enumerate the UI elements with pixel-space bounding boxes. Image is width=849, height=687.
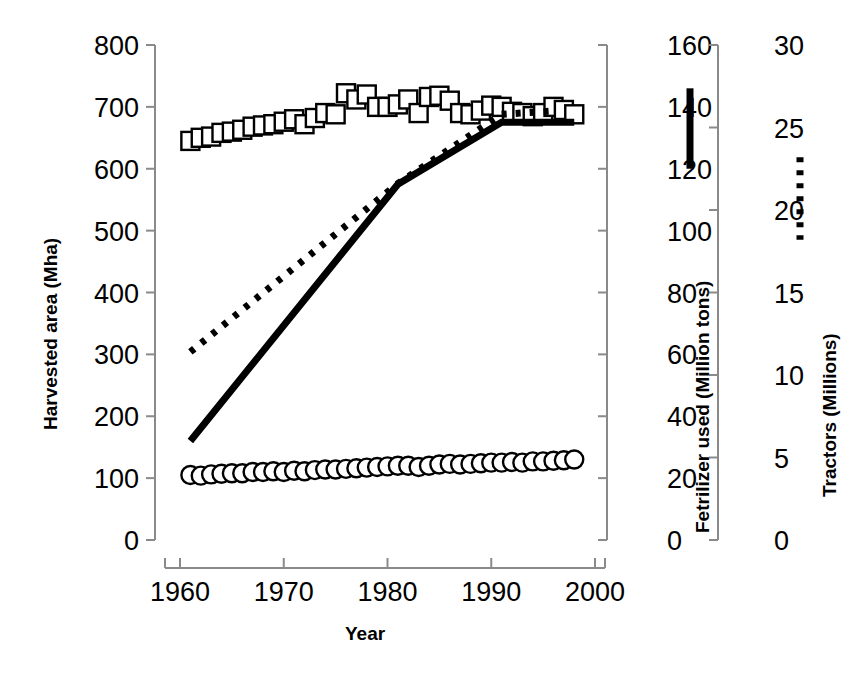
axis-tick-label: 100 bbox=[94, 464, 139, 494]
x-axis-tick-label: 2000 bbox=[565, 577, 625, 607]
axis-tick-label: 160 bbox=[667, 31, 712, 61]
x-axis-tick-label: 1970 bbox=[254, 577, 314, 607]
axis-tick-label: 700 bbox=[94, 93, 139, 123]
x-axis-tick-label: 1990 bbox=[461, 577, 521, 607]
y-axis-fertilizer-label: Fetrilizer used (Million tons) bbox=[692, 281, 714, 533]
axis-tick-label: 25 bbox=[774, 114, 804, 144]
y-axis-tractors-label: Tractors (Millions) bbox=[819, 333, 841, 497]
axis-tick-label: 200 bbox=[94, 402, 139, 432]
axis-tick-label: 600 bbox=[94, 155, 139, 185]
axis-tick-label: 100 bbox=[667, 217, 712, 247]
axis-tick-label: 400 bbox=[94, 279, 139, 309]
axis-tick-label: 0 bbox=[124, 526, 139, 556]
x-axis-label: Year bbox=[345, 623, 385, 645]
x-axis-tick-label: 1980 bbox=[357, 577, 417, 607]
x-axis-tick-label: 1960 bbox=[150, 577, 210, 607]
chart-figure: 0100200300400500600700800 02040608010012… bbox=[0, 0, 849, 687]
axis-tick-label: 300 bbox=[94, 340, 139, 370]
axis-tick-label: 800 bbox=[94, 31, 139, 61]
y-axis-left-label: Harvested area (Mha) bbox=[40, 238, 62, 430]
data-point-circle bbox=[565, 451, 583, 469]
axis-tick-label: 0 bbox=[667, 526, 682, 556]
axis-tick-label: 15 bbox=[774, 279, 804, 309]
data-point-square bbox=[327, 105, 345, 123]
axis-tick-label: 30 bbox=[774, 31, 804, 61]
axis-tick-label: 500 bbox=[94, 217, 139, 247]
chart-canvas: 0100200300400500600700800 02040608010012… bbox=[0, 0, 849, 687]
axis-tick-label: 10 bbox=[774, 361, 804, 391]
axis-tick-label: 5 bbox=[774, 444, 789, 474]
axis-tick-label: 0 bbox=[774, 526, 789, 556]
